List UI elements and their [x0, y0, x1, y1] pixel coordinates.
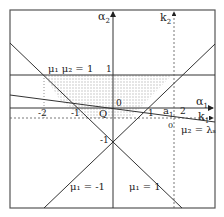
- tick-top-one: 1: [106, 64, 112, 74]
- mu1-one-label: μ₁ = 1: [129, 181, 161, 192]
- mu2-lambda-label: μ₂ = λₛ: [181, 124, 216, 135]
- tick-one: 1: [148, 108, 154, 118]
- point-q-label: Q: [99, 108, 107, 119]
- k2-axis-label: k2: [160, 11, 171, 26]
- mu1-eq-minus-1-line: [44, 142, 113, 208]
- tick-a1-zero: 0: [168, 121, 173, 130]
- alpha2-axis-label: α2: [98, 10, 110, 25]
- mu1-eq-1-line: [113, 142, 182, 208]
- tick-minus-two: -2: [38, 108, 47, 118]
- alpha1-axis-label: α1: [196, 95, 208, 110]
- point-a1-label: a1: [163, 105, 173, 119]
- stability-diagram: α2 k2 α1 k1 μ₁ μ₂ = 1 1 0 -2 -1 Q 1 a1 2…: [0, 0, 224, 217]
- mu1-minus-one-label: μ₁ = -1: [70, 181, 105, 192]
- k1-axis-label: k1: [198, 110, 209, 125]
- product-line-label: μ₁ μ₂ = 1: [48, 63, 93, 74]
- tick-bottom-minus-one: -1: [100, 135, 109, 145]
- tick-origin: 0: [116, 98, 122, 108]
- tick-minus-one: -1: [71, 108, 80, 118]
- tick-two: 2: [180, 106, 186, 116]
